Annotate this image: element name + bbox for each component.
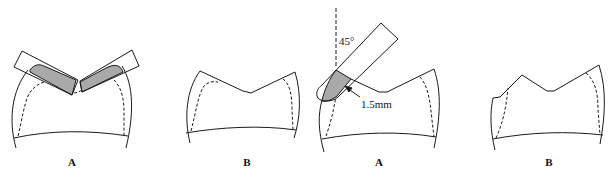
depth-label: 1.5mm bbox=[361, 98, 392, 110]
figure-3-arrow bbox=[345, 86, 360, 97]
figure-3-removed-structure bbox=[322, 70, 351, 101]
figure-2-caption: B bbox=[243, 156, 251, 168]
figure-4-caption: B bbox=[545, 156, 553, 168]
dental-preparation-diagram: 45° 1.5mm A B A B bbox=[0, 0, 611, 180]
figure-4-tooth bbox=[491, 65, 604, 150]
figure-3-caption: A bbox=[375, 156, 383, 168]
figure-2-tooth bbox=[186, 71, 299, 143]
angle-label: 45° bbox=[339, 35, 354, 47]
figure-1-caption: A bbox=[68, 156, 76, 168]
